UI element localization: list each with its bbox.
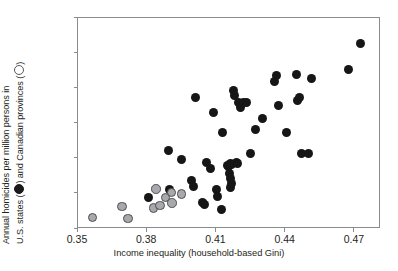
x-tick-mark <box>353 228 354 232</box>
data-point-canadian-province <box>167 188 177 198</box>
data-point-canadian-province <box>155 201 165 211</box>
data-point-us-state <box>233 159 242 168</box>
data-point-us-state <box>226 183 235 192</box>
data-point-us-state <box>213 192 222 201</box>
data-point-us-state <box>282 128 291 137</box>
data-point-us-state <box>292 70 301 79</box>
data-point-us-state <box>274 101 283 110</box>
data-point-canadian-province <box>88 213 98 223</box>
data-point-canadian-province <box>177 189 187 199</box>
data-point-us-state <box>218 128 227 137</box>
plot-area <box>77 17 380 228</box>
x-tick-label: 0.38 <box>126 233 166 245</box>
data-point-canadian-province <box>151 184 161 194</box>
data-point-us-state <box>295 93 304 102</box>
data-point-us-state <box>307 74 316 83</box>
data-point-us-state <box>206 164 215 173</box>
x-tick-label: 0.41 <box>195 233 235 245</box>
data-point-us-state <box>200 200 209 209</box>
data-point-us-state <box>246 149 255 158</box>
data-point-us-state <box>344 65 353 74</box>
x-tick-label: 0.44 <box>265 233 305 245</box>
y-axis-ticks: 0306090120150180 <box>0 0 77 250</box>
data-point-canadian-province <box>117 202 127 212</box>
data-point-us-state <box>242 98 251 107</box>
data-point-us-state <box>251 125 260 134</box>
x-tick-label: 0.35 <box>57 233 97 245</box>
x-tick-mark <box>215 228 216 232</box>
data-point-us-state <box>258 114 267 123</box>
x-tick-mark <box>77 228 78 232</box>
data-point-us-state <box>144 193 153 202</box>
data-point-us-state <box>217 205 226 214</box>
data-point-us-state <box>177 155 186 164</box>
data-point-us-state <box>356 39 365 48</box>
data-point-us-state <box>191 93 200 102</box>
x-axis-title: Income inequality (household-based Gini) <box>0 248 398 258</box>
x-tick-label: 0.47 <box>334 233 374 245</box>
data-point-us-state <box>272 71 281 80</box>
data-point-us-state <box>304 149 313 158</box>
x-tick-mark <box>284 228 285 232</box>
data-point-us-state <box>164 146 173 155</box>
data-point-us-state <box>189 182 198 191</box>
scatter-plot-figure: Annual homicides per million persons in … <box>0 0 398 271</box>
data-point-canadian-province <box>167 198 177 208</box>
data-point-us-state <box>209 108 218 117</box>
x-tick-mark <box>146 228 147 232</box>
data-point-canadian-province <box>123 214 133 224</box>
